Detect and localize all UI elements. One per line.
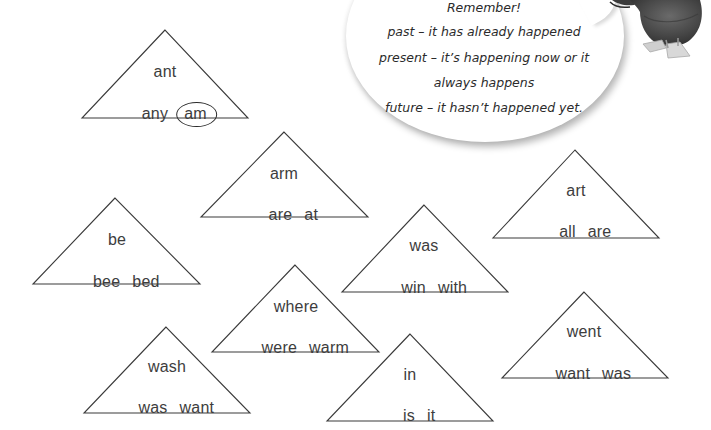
triangle-went-bottom-words: wantwas: [537, 350, 631, 398]
triangle-where-bottom-words: werewarm: [243, 324, 349, 372]
word-option[interactable]: with: [438, 280, 467, 296]
word-option-circled[interactable]: am: [180, 106, 211, 122]
triangle-went-top-word: went: [567, 324, 602, 340]
word-option[interactable]: is: [403, 408, 415, 424]
bird-character-icon: [600, 0, 711, 62]
triangle-be-bottom-words: beebed: [74, 258, 159, 306]
word-option[interactable]: was: [138, 400, 167, 416]
word-option[interactable]: all: [559, 224, 576, 240]
word-option[interactable]: warm: [309, 340, 349, 356]
triangle-in-top-word: in: [404, 367, 417, 383]
word-option[interactable]: win: [401, 280, 426, 296]
triangle-was-bottom-words: winwith: [383, 264, 467, 312]
bubble-line-present: present – it’s happening now or it: [379, 52, 589, 65]
triangle-arm-bottom-words: areat: [250, 191, 318, 239]
speech-bubble: [346, 0, 624, 142]
triangle-be-top-word: be: [108, 232, 126, 248]
word-option[interactable]: were: [262, 340, 297, 356]
triangle-wash-bottom-words: waswant: [120, 384, 214, 430]
word-option[interactable]: bee: [93, 274, 120, 290]
bubble-line-past: past – it has already happened: [387, 26, 580, 39]
word-option[interactable]: bed: [132, 274, 159, 290]
triangle-art-top-word: art: [566, 183, 585, 199]
triangle-arm-top-word: arm: [270, 166, 298, 182]
worksheet: Remember! past – it has already happened…: [0, 0, 711, 430]
word-option[interactable]: are: [269, 207, 293, 223]
triangle-ant-bottom-words: anyam: [123, 90, 211, 138]
bubble-line-future: future – it hasn’t happened yet.: [385, 102, 583, 115]
word-option[interactable]: want: [180, 400, 215, 416]
triangle-art-bottom-words: allare: [541, 208, 612, 256]
word-option[interactable]: are: [588, 224, 612, 240]
bubble-heading: Remember!: [447, 2, 521, 15]
word-option[interactable]: at: [304, 207, 318, 223]
word-option[interactable]: it: [427, 408, 435, 424]
triangle-in-bottom-words: isit: [385, 392, 436, 430]
triangle-ant-top-word: ant: [154, 64, 177, 80]
word-option[interactable]: want: [555, 366, 590, 382]
word-option[interactable]: any: [142, 106, 168, 122]
triangle-was-top-word: was: [409, 238, 438, 254]
word-option[interactable]: was: [602, 366, 631, 382]
triangle-where-top-word: where: [274, 299, 319, 315]
bubble-line-always: always happens: [434, 77, 534, 90]
triangle-wash-top-word: wash: [148, 359, 186, 375]
